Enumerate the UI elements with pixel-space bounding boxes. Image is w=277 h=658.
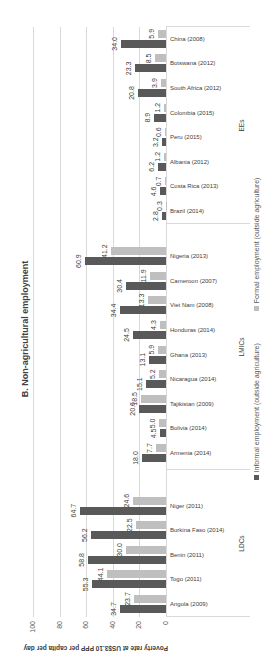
category-label: Peru (2015): [170, 134, 202, 140]
data-label: 34.7: [110, 594, 117, 624]
data-label: 5.0: [149, 408, 156, 438]
bar-formal: [148, 296, 166, 304]
y-tick-label: 0: [162, 621, 169, 645]
category-label: Brazil (2014): [170, 208, 204, 214]
gridline: [60, 27, 61, 617]
data-label: 64.7: [70, 496, 77, 526]
bar-informal: [85, 257, 166, 265]
legend-swatch-informal: [254, 475, 259, 480]
bar-formal: [158, 346, 166, 354]
category-label: China (2008): [170, 36, 205, 42]
legend-item-informal: Informal employment (outside agriculture…: [253, 343, 260, 480]
category-label: Niger (2011): [170, 503, 203, 509]
data-label: 4.3: [150, 310, 157, 340]
bar-formal: [160, 321, 166, 329]
legend-swatch-formal: [254, 306, 259, 311]
legend-item-formal: Formal employment (outside agriculture): [253, 178, 260, 312]
group-label-ees: EEs: [238, 27, 245, 224]
bar-informal: [162, 138, 166, 146]
data-label: 24.6: [123, 486, 130, 516]
group-label-lmics: LMICs: [238, 224, 245, 470]
data-label: 30.4: [116, 271, 123, 301]
category-label: Nigeria (2013): [170, 253, 208, 259]
data-label: 5.9: [148, 19, 155, 49]
data-label: 23.7: [124, 584, 131, 614]
category-label: Albania (2012): [170, 159, 209, 165]
gridline: [33, 27, 34, 617]
group-label-ldcs: LDCs: [238, 470, 245, 617]
category-label: Armenia (2014): [170, 450, 211, 456]
data-label: 44.1: [97, 559, 104, 589]
bar-informal: [162, 212, 166, 220]
chart-frame: B. Non-agricultural employment Poverty r…: [0, 0, 277, 658]
bar-informal: [160, 429, 166, 437]
bar-informal: [121, 40, 166, 48]
bar-formal: [141, 395, 166, 403]
y-tick-label: 60: [82, 621, 89, 645]
category-label: Honduras (2014): [170, 327, 215, 333]
bar-formal: [150, 272, 166, 280]
bar-formal: [126, 546, 166, 554]
category-label: South Africa (2012): [170, 85, 221, 91]
y-tick-label: 20: [135, 621, 142, 645]
bar-formal: [133, 497, 166, 505]
bar-formal: [107, 570, 166, 578]
data-label: 34.0: [111, 29, 118, 59]
bar-formal: [111, 247, 166, 255]
bar-formal: [155, 54, 166, 62]
category-label: Bolivia (2014): [170, 425, 207, 431]
bar-formal: [164, 153, 166, 161]
data-label: 24.5: [123, 320, 130, 350]
bar-formal: [164, 104, 166, 112]
bar-formal: [165, 177, 166, 185]
bar-formal: [161, 79, 166, 87]
bar-formal: [136, 521, 166, 529]
bar-formal: [158, 30, 166, 38]
bar-informal: [139, 405, 166, 413]
category-label: Burkina Faso (2014): [170, 527, 224, 533]
y-axis-title: Poverty rate at US$3.10 PPP per capita p…: [24, 645, 168, 652]
data-label: 41.2: [101, 236, 108, 266]
category-label: Tajikistan (2009): [170, 401, 214, 407]
category-axis-line: [166, 27, 167, 617]
data-label: 8.9: [144, 103, 151, 133]
y-tick-label: 100: [29, 621, 36, 645]
bar-formal: [165, 128, 166, 136]
legend-label-informal: Informal employment (outside agriculture…: [253, 343, 260, 472]
data-label: 13.1: [139, 345, 146, 375]
category-label: Costa Rica (2013): [170, 183, 218, 189]
legend-label-formal: Formal employment (outside agriculture): [253, 178, 260, 304]
bar-formal: [159, 370, 166, 378]
bar-formal: [156, 444, 166, 452]
category-label: Colombia (2015): [170, 110, 214, 116]
category-label: Botswana (2012): [170, 60, 215, 66]
data-label: 18.0: [132, 443, 139, 473]
category-label: Angola (2009): [170, 601, 208, 607]
legend: Informal employment (outside agriculture…: [253, 0, 260, 658]
bar-formal: [134, 595, 166, 603]
data-label: 56.2: [81, 520, 88, 550]
data-label: 60.9: [75, 246, 82, 276]
y-tick-label: 40: [109, 621, 116, 645]
category-label: Cameroon (2007): [170, 278, 217, 284]
data-label: 30.0: [116, 535, 123, 565]
bar-informal: [88, 556, 166, 564]
data-label: 11.9: [140, 261, 147, 291]
category-label: Ghana (2013): [170, 352, 207, 358]
category-label: Togo (2011): [170, 576, 202, 582]
category-label: Nicaragua (2014): [170, 376, 216, 382]
bar-formal: [159, 419, 166, 427]
chart-title: B. Non-agricultural employment: [20, 0, 30, 658]
y-tick-label: 80: [56, 621, 63, 645]
category-label: Viet Nam (2008): [170, 302, 214, 308]
data-label: 3.9: [151, 68, 158, 98]
data-label: 23.3: [125, 53, 132, 83]
category-label: Benin (2011): [170, 552, 204, 558]
